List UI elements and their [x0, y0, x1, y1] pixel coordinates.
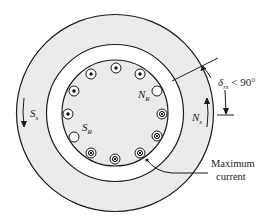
conductor-cross-bottom — [110, 154, 120, 164]
label-torque-angle: δrs < 90° — [218, 76, 256, 91]
conductor-cross-bottom-left — [86, 148, 96, 158]
machine-cross-section: Ss Ns NR SR δrs < 90° Maximum current — [0, 0, 269, 222]
conductor-dot-left-upper — [69, 86, 79, 96]
conductor-dot-top-left — [86, 69, 96, 79]
conductor-dot-top — [111, 63, 121, 73]
label-max-current-line1: Maximum — [211, 158, 255, 169]
conductor-empty-left-lower — [69, 132, 79, 142]
conductor-cross-right — [157, 109, 167, 119]
rotor — [62, 60, 168, 166]
conductor-cross-bottom-right — [135, 148, 145, 158]
conductor-cross-right-lower — [152, 131, 162, 141]
conductor-empty-right-upper — [152, 86, 162, 96]
conductor-dot-top-right — [135, 69, 145, 79]
diagram-canvas: Ss Ns NR SR δrs < 90° Maximum current — [0, 0, 269, 222]
conductor-dot-left — [63, 109, 73, 119]
label-max-current-line2: current — [216, 171, 246, 182]
